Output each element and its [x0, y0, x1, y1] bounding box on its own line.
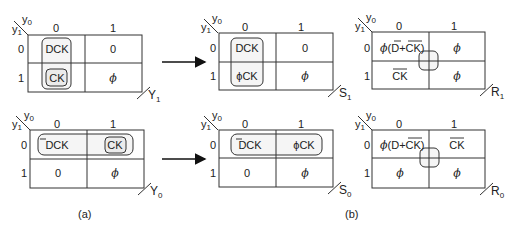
row-header-1: 1 [364, 167, 370, 179]
cell-01: CK [107, 139, 123, 151]
row-header-0: 0 [21, 139, 27, 151]
row-header-1: 1 [21, 167, 27, 179]
col-header-0: 0 [396, 20, 402, 32]
row-var-label: y1 [12, 23, 23, 37]
row-header-1: 1 [210, 70, 216, 82]
cell-01: CK [449, 139, 465, 151]
cell-01: 0 [110, 43, 116, 55]
cell-00: ϕ(D+CK) [380, 42, 425, 55]
row-header-1: 1 [210, 167, 216, 179]
cell-11: ϕ [453, 167, 461, 180]
col-var-label: y0 [24, 109, 35, 123]
cell-10: CK [49, 72, 65, 84]
kmap-y1: y0 y1 0 1 0 1 DCK 0 CK ϕ Y1 [12, 13, 161, 104]
row-header-1: 1 [364, 70, 370, 82]
cell-11: ϕ [301, 70, 309, 83]
row-var-label: y1 [201, 21, 212, 35]
col-var-label: y0 [366, 109, 377, 123]
cell-11: ϕ [111, 167, 119, 180]
cell-00: DCK [45, 43, 69, 55]
cell-01: 0 [302, 42, 308, 54]
row-header-0: 0 [364, 42, 370, 54]
row-var-label: y1 [355, 20, 366, 34]
col-header-1: 1 [451, 118, 457, 130]
row-var-label: y1 [12, 118, 23, 132]
cell-10: ϕCK [236, 70, 258, 82]
col-header-1: 1 [451, 20, 457, 32]
kmap-r0: y0 y1 0 1 0 1 ϕ(D+CK) CK ϕ ϕ R0 [355, 109, 505, 200]
cell-11: ϕ [109, 72, 117, 85]
col-var-label: y0 [366, 11, 377, 25]
cell-10: 0 [55, 167, 61, 179]
col-var-label: y0 [212, 109, 223, 123]
output-label: R1 [491, 85, 505, 101]
kmap-r1: y0 y1 0 1 0 1 ϕ(D+CK) ϕ CK ϕ R1 [355, 11, 505, 101]
row-header-0: 0 [18, 43, 24, 55]
row-header-0: 0 [210, 42, 216, 54]
output-label: Y0 [150, 184, 163, 200]
cell-00: DCK [45, 139, 69, 151]
output-label: S0 [339, 183, 352, 199]
col-var-label: y0 [22, 13, 33, 27]
panel-b-label: (b) [345, 208, 358, 220]
cell-00: DCK [235, 42, 259, 54]
col-header-0: 0 [54, 118, 60, 130]
row-header-0: 0 [364, 139, 370, 151]
cell-10: CK [392, 70, 408, 82]
cell-01: ϕCK [293, 139, 315, 151]
row-var-label: y1 [355, 118, 366, 132]
kmap-s0: y0 y1 0 1 0 1 DCK ϕCK 0 ϕ S0 [201, 109, 352, 199]
cell-10: ϕ [396, 167, 404, 180]
kmap-s1: y0 y1 0 1 0 1 DCK 0 ϕCK ϕ S1 [201, 12, 352, 102]
row-header-0: 0 [210, 139, 216, 151]
col-header-0: 0 [242, 118, 248, 130]
cell-00: ϕ(D+CK) [380, 139, 425, 152]
cell-11: ϕ [301, 167, 309, 180]
col-header-0: 0 [53, 22, 59, 34]
cell-11: ϕ [453, 70, 461, 83]
col-var-label: y0 [212, 12, 223, 26]
row-var-label: y1 [201, 118, 212, 132]
cell-00: DCK [238, 139, 262, 151]
col-header-1: 1 [298, 21, 304, 33]
output-label: Y1 [148, 88, 161, 104]
output-label: R0 [491, 184, 505, 200]
cell-10: 0 [244, 167, 250, 179]
output-label: S1 [339, 86, 352, 102]
col-header-1: 1 [110, 22, 116, 34]
panel-a-label: (a) [78, 208, 91, 220]
col-header-1: 1 [110, 118, 116, 130]
kmap-figure: y0 y1 0 1 0 1 DCK 0 CK ϕ Y1 y0 y1 0 1 0 … [0, 0, 515, 230]
col-header-0: 0 [396, 118, 402, 130]
row-header-1: 1 [18, 72, 24, 84]
col-header-0: 0 [242, 21, 248, 33]
col-header-1: 1 [298, 118, 304, 130]
kmap-y0: y0 y1 0 1 0 1 DCK CK 0 ϕ Y0 [12, 109, 163, 200]
cell-01: ϕ [453, 42, 461, 55]
